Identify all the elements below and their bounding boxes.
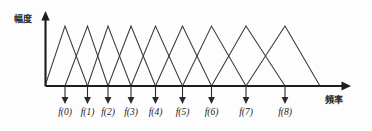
tick-label: f(2)	[101, 107, 115, 118]
y-axis-title: 幅度	[14, 13, 33, 24]
tick-pointer-arrowhead	[179, 97, 186, 104]
tick-pointer-arrowhead	[84, 97, 91, 104]
tick-pointer-arrowhead	[105, 97, 112, 104]
tick-label: f(5)	[176, 107, 190, 118]
triangle-filter	[108, 26, 156, 86]
filter-bank-figure: f(0)f(1)f(2)f(3)f(4)f(5)f(6)f(7)f(8) 幅度 …	[0, 0, 372, 131]
tick-label: f(3)	[124, 107, 138, 118]
tick-pointer-arrowhead	[152, 97, 159, 104]
tick-pointers-group	[62, 86, 289, 104]
tick-pointer-arrowhead	[282, 97, 289, 104]
filter-bank-plot: f(0)f(1)f(2)f(3)f(4)f(5)f(6)f(7)f(8) 幅度 …	[0, 0, 372, 131]
triangle-filter	[88, 26, 132, 86]
axes-group	[41, 11, 351, 90]
x-axis-arrowhead	[342, 82, 352, 91]
triangle-filters-group	[45, 26, 320, 86]
tick-label: f(4)	[149, 107, 163, 118]
y-axis-arrowhead	[41, 11, 49, 21]
tick-label: f(1)	[81, 107, 95, 118]
tick-pointer-arrowhead	[243, 97, 250, 104]
triangle-filter	[212, 26, 286, 86]
triangle-filter	[246, 26, 320, 86]
triangle-filter	[65, 26, 108, 86]
x-axis-title: 頻率	[325, 94, 343, 105]
tick-pointer-arrowhead	[62, 97, 69, 104]
triangle-filter	[131, 26, 183, 86]
tick-labels-group: f(0)f(1)f(2)f(3)f(4)f(5)f(6)f(7)f(8)	[58, 107, 292, 118]
triangle-filter	[45, 26, 88, 86]
tick-pointer-arrowhead	[128, 97, 135, 104]
triangle-filter	[156, 26, 212, 86]
tick-label: f(7)	[239, 107, 253, 118]
tick-label: f(0)	[58, 107, 72, 118]
tick-label: f(6)	[205, 107, 219, 118]
triangle-filter	[183, 26, 247, 86]
tick-pointer-arrowhead	[208, 97, 215, 104]
tick-label: f(8)	[278, 107, 292, 118]
